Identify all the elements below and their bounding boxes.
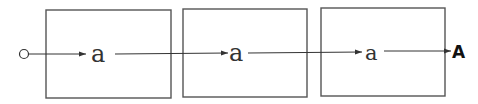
arrow-a2-to-a3 <box>248 52 362 53</box>
box-2-label: a <box>229 39 243 67</box>
diagram-canvas: a a a A <box>0 0 478 104</box>
final-label: A <box>452 42 466 62</box>
box-1-label: a <box>91 40 105 68</box>
arrow-a1-to-a2 <box>115 53 228 54</box>
box-3-label: a <box>365 41 378 65</box>
start-circle-icon <box>20 50 29 59</box>
